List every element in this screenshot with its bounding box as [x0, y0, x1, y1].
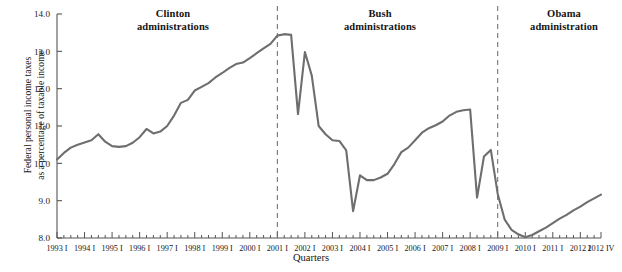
- axes-group: [57, 14, 601, 238]
- data-series-group: [57, 34, 601, 237]
- annotation-obama: Obama administration: [508, 8, 620, 33]
- y-tick-label: 8.0: [39, 233, 51, 243]
- dividers-group: [277, 6, 497, 238]
- annotation-bush: Bush administrations: [315, 8, 445, 33]
- annotation-clinton: Clinton administrations: [108, 8, 238, 33]
- chart-plot-area: 8.09.010.011.012.013.014.0 1993 I1994 I1…: [0, 0, 622, 272]
- chart-figure: 8.09.010.011.012.013.014.0 1993 I1994 I1…: [0, 0, 622, 272]
- y-axis-label-wrap: Federal personal income taxes as a perce…: [21, 9, 51, 221]
- y-axis-label: Federal personal income taxes as a perce…: [21, 9, 47, 221]
- x-axis-label: Quarters: [0, 252, 622, 263]
- tax-rate-line: [57, 34, 601, 237]
